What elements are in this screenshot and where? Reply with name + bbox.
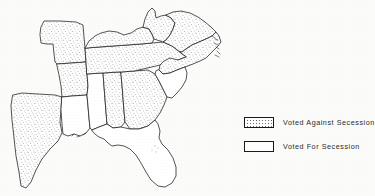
- legend-label-against: Voted Against Secession: [283, 118, 375, 127]
- legend-label-for: Voted For Secession: [283, 142, 360, 151]
- state-louisiana: [61, 95, 90, 136]
- state-arkansas: [57, 62, 88, 97]
- legend-entry-for: Voted For Secession: [244, 134, 366, 158]
- state-missouri: [40, 21, 86, 64]
- state-texas: [11, 93, 62, 188]
- state-florida: [92, 120, 176, 187]
- map-legend: Voted Against Secession Voted For Secess…: [244, 110, 366, 158]
- legend-swatch-stipple: [244, 117, 274, 128]
- legend-entry-against: Voted Against Secession: [244, 110, 366, 134]
- legend-swatch-plain: [244, 141, 274, 152]
